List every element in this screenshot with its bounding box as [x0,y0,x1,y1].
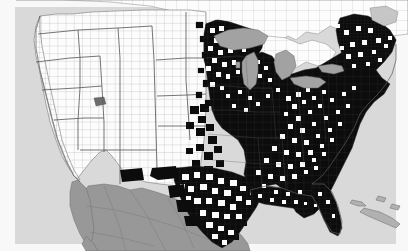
us-county-choropleth-map [0,0,408,251]
distribution-map-figure: County-level presence map of the contigu… [0,0,408,251]
scan-noise-overlay [0,0,408,251]
